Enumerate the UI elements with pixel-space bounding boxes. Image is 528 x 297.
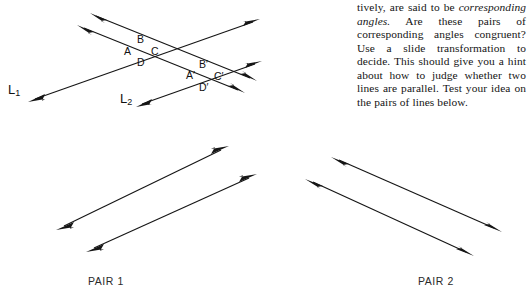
transversal-upper-arrowhead-right: [228, 83, 245, 93]
pair2-line-b-arrowhead-left: [305, 179, 323, 189]
body-text-column: tively, are said to be corresponding ang…: [357, 1, 526, 109]
line-label-L2: L2: [120, 92, 132, 107]
pair1-line-b-segment: [94, 178, 249, 248]
pair2-line-b-arrowhead-right: [456, 246, 474, 256]
textbook-page: L1 L2 A B C D A′ B′ C′ D′ PAIR 1 PAIR 2 …: [0, 0, 528, 297]
pair1-figure-group: [56, 146, 257, 252]
line-L2-arrowhead-left: [136, 99, 152, 107]
angle-label-C-prime: C′: [214, 71, 224, 82]
angle-label-D-prime: D′: [199, 82, 209, 93]
body-paragraph: tively, are said to be corresponding ang…: [357, 1, 526, 109]
line-L2-arrowhead-right: [245, 61, 262, 68]
angle-label-B: B: [137, 34, 144, 45]
pair2-line-a-segment: [339, 160, 494, 228]
line-label-L1: L1: [8, 83, 20, 98]
pair1-line-a-arrowhead-left: [56, 222, 74, 230]
pair2-line-b-segment: [313, 182, 466, 252]
transversal-upper-arrowhead-left: [77, 25, 94, 35]
angle-label-B-prime: B′: [199, 59, 208, 70]
angle-label-A: A: [124, 46, 131, 57]
pair1-line-a-arrowhead-right: [211, 146, 229, 154]
line-L1-arrowhead-left: [28, 94, 45, 102]
transversal-lower-arrowhead-left: [90, 13, 107, 23]
body-text-segment-roman-1: tively, are said to be: [357, 1, 459, 13]
angle-label-C: C: [151, 46, 159, 57]
body-text-segment-roman-2: Are these pairs of corresponding angles …: [357, 15, 526, 108]
transversal-lower-arrowhead-right: [240, 71, 257, 81]
line-label-L2-subscript: 2: [127, 97, 132, 107]
pair1-line-a-segment: [64, 150, 221, 226]
line-label-L1-subscript: 1: [15, 88, 20, 98]
pair1-caption: PAIR 1: [88, 276, 124, 287]
angle-label-A-prime: A′: [186, 70, 195, 81]
angle-label-D: D: [137, 57, 145, 68]
pair2-caption: PAIR 2: [418, 276, 454, 287]
pair2-line-a-arrowhead-left: [331, 157, 349, 167]
pair2-figure-group: [305, 157, 502, 256]
top-figure-group: [28, 13, 262, 107]
pair2-line-a-arrowhead-right: [484, 222, 502, 232]
